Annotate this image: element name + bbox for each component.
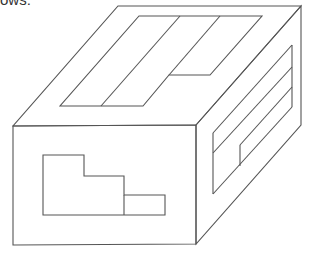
front-inner-shape: [43, 155, 165, 215]
front-face-outline: [13, 125, 196, 245]
top-divider-right: [169, 16, 220, 75]
top-face-pattern: [60, 16, 262, 106]
isometric-box-diagram: [0, 0, 310, 257]
right-face-pattern: [213, 45, 292, 194]
top-inner-shape: [60, 16, 262, 106]
right-face-outline: [196, 6, 301, 244]
top-divider-left: [101, 16, 180, 106]
right-diagonal-b: [213, 67, 292, 153]
front-face-pattern: [43, 155, 165, 215]
top-face-outline: [13, 6, 301, 126]
